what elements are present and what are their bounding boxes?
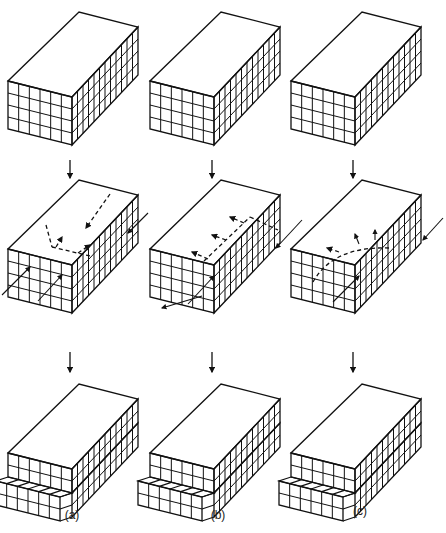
- label-c: (c): [353, 504, 367, 518]
- block-dislocation-b: [150, 180, 280, 313]
- shear-arrow: [423, 218, 443, 240]
- block-dislocation-a: [8, 180, 138, 313]
- block-initial-c: [291, 12, 421, 145]
- label-a: (a): [65, 508, 80, 522]
- block-initial-b: [150, 12, 280, 145]
- motion-arrow: [56, 237, 62, 247]
- motion-arrow: [230, 217, 244, 223]
- dislocation-slip-diagram: [0, 0, 446, 533]
- block-slipped-c: [279, 384, 421, 521]
- motion-arrow: [192, 252, 208, 259]
- block-dislocation-c: [291, 180, 421, 313]
- motion-arrow: [212, 235, 226, 240]
- shear-arrow: [2, 267, 30, 295]
- label-b: (b): [211, 508, 226, 522]
- block-slipped-a: [0, 384, 138, 521]
- block-initial-a: [8, 12, 138, 145]
- motion-arrow: [86, 194, 110, 228]
- block-slipped-b: [138, 384, 280, 521]
- motion-arrow: [355, 234, 359, 244]
- motion-arrow: [327, 248, 339, 252]
